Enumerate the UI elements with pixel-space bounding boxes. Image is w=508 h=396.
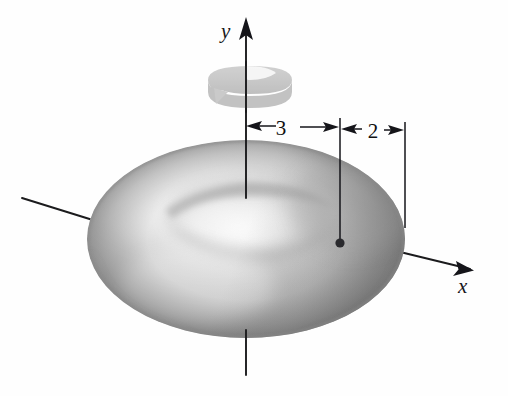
figure-canvas: x	[0, 0, 508, 396]
cross-section-center-dot	[335, 238, 344, 247]
dimension-2-label: 2	[368, 119, 379, 143]
dimension-2: 2	[341, 119, 404, 143]
torus-surface	[84, 138, 414, 342]
z-axis-visible-segment	[22, 198, 96, 221]
x-axis-label: x	[457, 274, 468, 298]
rotation-arrow	[208, 66, 292, 108]
y-axis-label: y	[219, 19, 231, 43]
dimension-3-label: 3	[276, 116, 287, 140]
dimension-3: 3	[246, 116, 339, 140]
torus-figure: x	[0, 0, 508, 396]
